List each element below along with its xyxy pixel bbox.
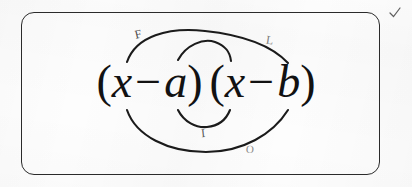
first-factor-open-paren: ( [96, 56, 111, 107]
figure-canvas: (x−a)(x−b) F L I O [0, 0, 412, 187]
second-factor-open-paren: ( [210, 56, 225, 107]
stray-check-icon [389, 7, 403, 21]
second-factor-term: b [277, 56, 300, 107]
first-factor-operator: − [132, 56, 164, 107]
second-factor-close-paren: ) [300, 56, 315, 107]
algebraic-expression: (x−a)(x−b) [0, 56, 412, 108]
first-factor-variable: x [112, 56, 132, 107]
second-factor-variable: x [225, 56, 245, 107]
second-factor-operator: − [245, 56, 277, 107]
first-factor-term: a [164, 56, 187, 107]
first-factor-close-paren: ) [187, 56, 202, 107]
foil-label-outer: O [246, 143, 255, 155]
